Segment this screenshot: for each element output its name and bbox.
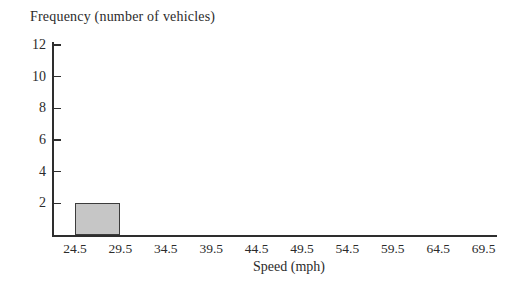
y-axis-title: Frequency (number of vehicles) <box>30 9 215 25</box>
y-tick-label: 2 <box>12 195 46 211</box>
y-tick-label: 8 <box>12 100 46 116</box>
x-tick-label: 34.5 <box>143 241 189 256</box>
x-tick-label: 69.5 <box>461 241 507 256</box>
x-tick-label: 44.5 <box>234 241 280 256</box>
histogram-bar <box>75 203 120 235</box>
y-axis-tick <box>54 203 61 205</box>
y-axis-tick <box>54 171 61 173</box>
x-tick-label: 39.5 <box>188 241 234 256</box>
y-axis-tick <box>54 76 61 78</box>
x-tick-label: 49.5 <box>279 241 325 256</box>
y-tick-label: 12 <box>12 37 46 53</box>
x-tick-label: 59.5 <box>370 241 416 256</box>
x-tick-label: 24.5 <box>52 241 98 256</box>
y-tick-label: 10 <box>12 69 46 85</box>
y-axis-tick <box>54 108 61 110</box>
y-tick-label: 4 <box>12 164 46 180</box>
y-axis-tick <box>54 139 61 141</box>
x-tick-label: 54.5 <box>324 241 370 256</box>
x-axis-line <box>52 235 497 237</box>
x-axis-title: Speed (mph) <box>228 259 350 275</box>
y-tick-label: 6 <box>12 132 46 148</box>
x-tick-label: 64.5 <box>415 241 461 256</box>
x-tick-label: 29.5 <box>97 241 143 256</box>
histogram-chart: Frequency (number of vehicles) 246810122… <box>0 0 524 298</box>
y-axis-tick <box>54 44 61 46</box>
